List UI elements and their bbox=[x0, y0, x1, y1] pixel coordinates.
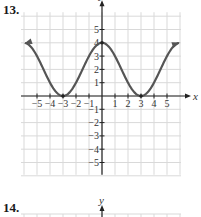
svg-text:5: 5 bbox=[165, 98, 170, 109]
svg-text:x: x bbox=[192, 90, 198, 102]
svg-text:2: 2 bbox=[126, 98, 131, 109]
graph-14-top: y bbox=[21, 194, 181, 217]
graph-13: xy−5−5−4−4−3−3−2−2−1−11122334455 y bbox=[0, 0, 201, 217]
svg-text:5: 5 bbox=[94, 24, 99, 35]
svg-text:3: 3 bbox=[139, 98, 144, 109]
svg-text:−2: −2 bbox=[71, 98, 82, 109]
svg-text:−5: −5 bbox=[88, 157, 99, 168]
svg-text:−1: −1 bbox=[88, 104, 99, 115]
svg-text:−4: −4 bbox=[45, 98, 56, 109]
svg-text:1: 1 bbox=[113, 98, 118, 109]
svg-text:−2: −2 bbox=[88, 117, 99, 128]
svg-text:1: 1 bbox=[94, 77, 99, 88]
axes bbox=[21, 0, 191, 175]
svg-text:y: y bbox=[98, 194, 104, 206]
svg-text:−3: −3 bbox=[58, 98, 69, 109]
svg-text:−4: −4 bbox=[88, 144, 99, 155]
svg-text:2: 2 bbox=[94, 64, 99, 75]
svg-text:−5: −5 bbox=[32, 98, 43, 109]
svg-text:y: y bbox=[98, 0, 104, 1]
svg-text:−3: −3 bbox=[88, 130, 99, 141]
svg-text:4: 4 bbox=[152, 98, 157, 109]
grid-lines bbox=[21, 12, 181, 176]
svg-text:3: 3 bbox=[94, 51, 99, 62]
